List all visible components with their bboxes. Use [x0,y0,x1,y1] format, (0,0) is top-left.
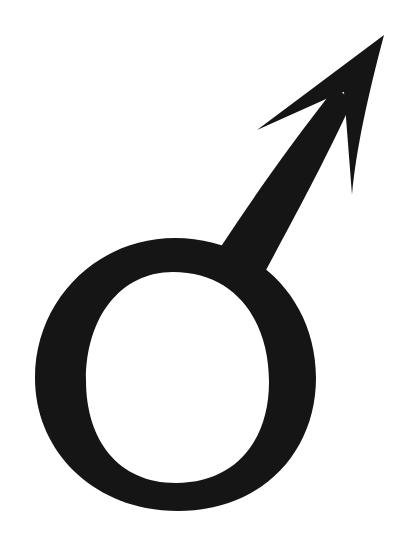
symbol-canvas: Male symbol (Mars) [0,0,419,549]
ring-shape [35,238,316,511]
male-symbol-icon [0,0,419,549]
